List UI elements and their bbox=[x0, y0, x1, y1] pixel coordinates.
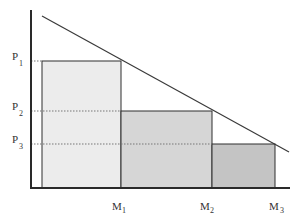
bar-block-1 bbox=[42, 61, 121, 188]
y-label-p2: P 2 bbox=[12, 100, 23, 118]
svg-text:2: 2 bbox=[210, 206, 214, 215]
svg-text:2: 2 bbox=[19, 109, 23, 118]
svg-text:M: M bbox=[269, 200, 279, 212]
svg-text:1: 1 bbox=[122, 206, 126, 215]
x-label-m2: M 2 bbox=[200, 200, 214, 215]
bar-block-3 bbox=[212, 144, 275, 188]
svg-text:P: P bbox=[12, 100, 18, 112]
svg-text:P: P bbox=[12, 133, 18, 145]
diagram-canvas: P 1 P 2 P 3 M 1 M 2 M 3 bbox=[0, 0, 297, 220]
y-label-p1: P 1 bbox=[12, 50, 23, 68]
svg-text:M: M bbox=[200, 200, 210, 212]
x-label-m1: M 1 bbox=[112, 200, 126, 215]
x-label-m3: M 3 bbox=[269, 200, 284, 215]
svg-text:M: M bbox=[112, 200, 122, 212]
svg-text:3: 3 bbox=[280, 206, 284, 215]
svg-text:3: 3 bbox=[19, 142, 23, 151]
svg-text:P: P bbox=[12, 50, 18, 62]
bar-block-2 bbox=[121, 111, 212, 188]
svg-text:1: 1 bbox=[19, 59, 23, 68]
y-label-p3: P 3 bbox=[12, 133, 23, 151]
